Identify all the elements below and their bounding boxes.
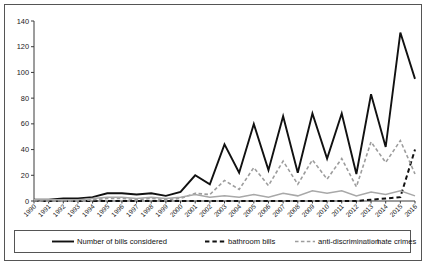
x-tick-label: 2004 [227, 203, 243, 219]
y-axis: 020406080100120140 [17, 17, 34, 206]
y-tick-label: 120 [17, 42, 29, 51]
x-tick-label: 2000 [168, 203, 184, 219]
x-tick-label: 2007 [271, 203, 287, 219]
x-tick-label: 1999 [154, 203, 170, 219]
x-tick-label: 2010 [315, 203, 331, 219]
line-chart: 020406080100120140 199019911992199319941… [0, 0, 426, 265]
legend: Number of bills consideredbathroom bills… [52, 237, 416, 246]
series-line-1 [34, 150, 415, 201]
y-tick-label: 40 [21, 145, 29, 154]
x-axis: 1990199119921993199419951996199719981999… [22, 201, 419, 218]
x-tick-label: 1996 [110, 203, 126, 219]
x-tick-label: 2005 [242, 203, 258, 219]
x-tick-label: 2009 [300, 203, 316, 219]
chart-figure: 020406080100120140 199019911992199319941… [0, 0, 426, 265]
x-tick-label: 2001 [183, 203, 199, 219]
legend-label-0: Number of bills considered [77, 237, 167, 246]
x-tick-label: 1995 [95, 203, 111, 219]
x-tick-label: 2016 [403, 203, 419, 219]
y-tick-label: 140 [17, 17, 29, 26]
x-tick-label: 1991 [37, 203, 53, 219]
y-tick-label: 100 [17, 68, 29, 77]
series-line-3 [34, 191, 415, 200]
x-tick-label: 1997 [124, 203, 140, 219]
legend-label-1: bathroom bills [228, 237, 275, 246]
x-tick-label: 2012 [344, 203, 360, 219]
x-tick-label: 2008 [286, 203, 302, 219]
x-tick-label: 2011 [330, 203, 345, 218]
y-tick-label: 20 [21, 171, 29, 180]
x-tick-label: 1998 [139, 203, 155, 219]
y-tick-label: 60 [21, 119, 29, 128]
x-tick-label: 2013 [359, 203, 375, 219]
x-tick-label: 2014 [374, 203, 390, 219]
x-tick-label: 2015 [388, 203, 404, 219]
series-lines [34, 33, 415, 201]
x-tick-label: 1994 [80, 203, 96, 219]
series-line-0 [34, 33, 415, 200]
x-tick-label: 1993 [66, 203, 82, 219]
x-tick-label: 2002 [198, 203, 214, 219]
legend-label-3: hate crimes [377, 237, 416, 246]
figure-border [5, 5, 422, 261]
x-tick-label: 2006 [256, 203, 272, 219]
y-tick-label: 80 [21, 94, 29, 103]
x-tick-label: 2003 [212, 203, 228, 219]
y-tick-label: 0 [25, 197, 29, 206]
x-tick-label: 1992 [51, 203, 67, 219]
